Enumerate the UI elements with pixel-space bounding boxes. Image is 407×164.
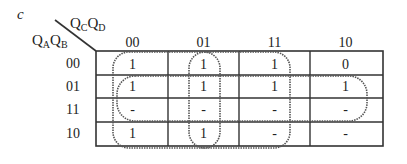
cell-01-11: 1 [239,80,310,94]
cell-11-00: - [97,103,168,117]
cell-01-00: 1 [97,80,168,94]
cell-10-10: - [310,127,381,141]
cell-10-01: 1 [168,127,239,141]
cell-11-10: - [310,103,381,117]
cell-00-10: 0 [310,58,381,72]
cell-01-10: 1 [310,80,381,94]
cell-10-00: 1 [97,127,168,141]
cell-00-11: 1 [239,58,310,72]
cell-11-01: - [168,103,239,117]
cell-10-11: - [239,127,310,141]
cell-11-11: - [239,103,310,117]
cell-01-01: 1 [168,80,239,94]
cell-00-00: 1 [97,58,168,72]
cell-00-01: 1 [168,58,239,72]
